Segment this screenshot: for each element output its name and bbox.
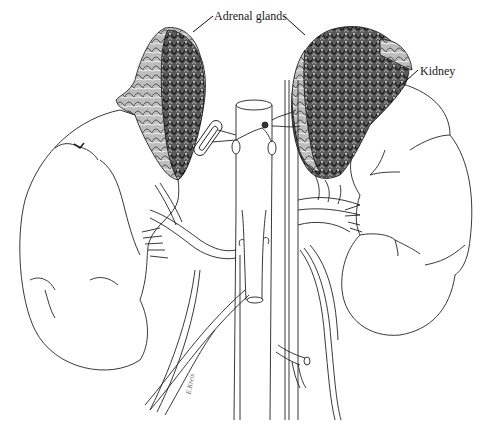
kidney-label: Kidney (420, 65, 455, 77)
ureters (145, 245, 341, 420)
leader-right-adrenal (284, 16, 305, 35)
anatomy-figure: Adrenal glands Kidney E.Kreis (0, 0, 486, 430)
kidney-adrenal-illustration (0, 0, 486, 430)
leader-left-adrenal (193, 16, 213, 32)
adrenal-glands-label: Adrenal glands (214, 10, 287, 22)
